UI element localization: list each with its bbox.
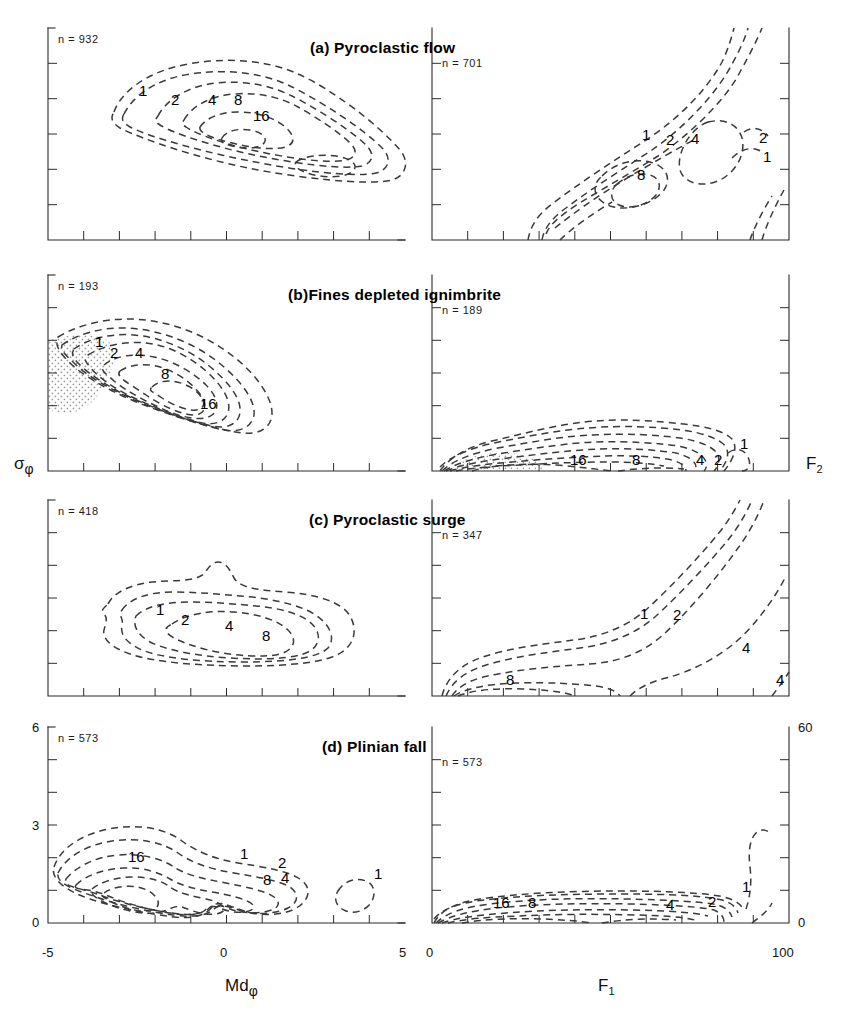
x-axis-title-subscript: φ: [249, 983, 258, 999]
panel-b-title: (b)Fines depleted ignimbrite: [288, 287, 501, 303]
panel-c-right-plot: [432, 500, 789, 696]
panel-c-marker: (c): [309, 511, 329, 528]
contour-label-2: 2: [714, 452, 722, 467]
contour-label-4: 4: [776, 672, 784, 687]
contour-label-4: 4: [225, 618, 233, 633]
x-axis-tick-mid: 0: [220, 946, 227, 959]
y-axis-tick-6: 6: [32, 721, 39, 734]
panel-a-title-text: Pyroclastic flow: [334, 39, 455, 56]
contour-label-8: 8: [234, 92, 242, 107]
contour-label-4: 4: [135, 345, 143, 360]
panel-b-right-n-label: n = 189: [442, 305, 483, 316]
contour-label-4: 4: [666, 897, 674, 912]
x-axis-title-base: Md: [225, 976, 249, 995]
panel-b-right-plot: [432, 275, 789, 471]
panel-b-left-plot: [48, 275, 405, 471]
contour-label-1: 1: [95, 334, 103, 349]
panel-c-right-n-label: n = 347: [442, 530, 483, 541]
contour-label-4: 4: [208, 92, 216, 107]
panel-c-left-n-label: n = 418: [58, 506, 99, 517]
y-axis-title-sigmaphi: σφ: [14, 455, 34, 476]
x-axis-title-mdphi: Mdφ: [225, 977, 258, 998]
contour-label-8: 8: [528, 895, 536, 910]
contour-label-1: 1: [740, 436, 748, 451]
panel-a-title: (a) Pyroclastic flow: [310, 40, 455, 56]
contour-label-16: 16: [128, 849, 145, 864]
panel-b-title-text: Fines depleted ignimbrite: [308, 286, 501, 303]
panel-a-left-n-label: n = 932: [58, 34, 99, 45]
x2-axis-tick-min: 0: [426, 946, 433, 959]
y-axis-tick-0: 0: [32, 916, 39, 929]
x2-axis-title-f1: F1: [598, 977, 615, 997]
contour-label-2: 2: [673, 607, 681, 622]
panel-d-marker: (d): [322, 738, 342, 755]
contour-label-16: 16: [570, 452, 587, 467]
panel-d-left-n-label: n = 573: [58, 733, 99, 744]
panel-d-left-plot: [48, 727, 405, 923]
contour-label-1: 1: [139, 83, 147, 98]
panel-b-marker: (b): [288, 286, 308, 303]
y2-axis-title-f2: F2: [806, 455, 823, 475]
contour-label-2: 2: [181, 612, 189, 627]
contour-label-4: 4: [696, 452, 704, 467]
x2-axis-title-base: F: [598, 976, 608, 995]
panel-a-right-plot: [432, 28, 789, 240]
y2-axis-tick-60: 60: [798, 721, 812, 734]
contour-label-2: 2: [759, 130, 767, 145]
panel-d-right-plot: [432, 727, 789, 923]
panel-c-title: (c) Pyroclastic surge: [309, 512, 466, 528]
contour-label-8: 8: [506, 672, 514, 687]
panel-d-right-n-label: n = 573: [442, 757, 483, 768]
panel-d-title: (d) Plinian fall: [322, 739, 427, 755]
contour-label-4: 4: [742, 640, 750, 655]
panel-a-right-n-label: n = 701: [442, 58, 483, 69]
panel-a-left-plot: [48, 28, 405, 240]
y-axis-title-base: σ: [14, 454, 25, 473]
contour-label-8: 8: [637, 167, 645, 182]
contour-label-2: 2: [110, 345, 118, 360]
contour-label-1: 1: [640, 606, 648, 621]
contour-label-2: 2: [708, 894, 716, 909]
contour-label-1: 1: [156, 602, 164, 617]
contour-label-2: 2: [666, 132, 674, 147]
x2-axis-tick-max: 100: [772, 946, 794, 959]
x2-axis-title-subscript: 1: [608, 985, 614, 997]
contour-label-8: 8: [263, 872, 271, 887]
contour-label-8: 8: [632, 452, 640, 467]
contour-label-16: 16: [200, 396, 217, 411]
contour-label-1: 1: [742, 879, 750, 894]
contour-label-4: 4: [691, 131, 699, 146]
contour-label-1: 1: [374, 866, 382, 881]
panel-d-title-text: Plinian fall: [347, 738, 427, 755]
contour-label-4: 4: [281, 870, 289, 885]
x-axis-tick-max: 5: [399, 946, 406, 959]
x-axis-tick-min: -5: [42, 946, 54, 959]
panel-b-left-n-label: n = 193: [58, 281, 99, 292]
contour-label-16: 16: [493, 895, 510, 910]
contour-label-8: 8: [262, 628, 270, 643]
panel-c-left-plot: [48, 500, 405, 696]
figure-root: n = 932 1 2 4 8 16: [0, 0, 848, 1020]
y2-axis-title-base: F: [806, 454, 816, 473]
y-axis-title-subscript: φ: [25, 461, 34, 477]
panel-a-marker: (a): [310, 39, 330, 56]
contour-label-16: 16: [253, 108, 270, 123]
y-axis-tick-3: 3: [32, 819, 39, 832]
contour-label-8: 8: [161, 366, 169, 381]
contour-label-2: 2: [171, 92, 179, 107]
panel-c-title-text: Pyroclastic surge: [333, 511, 466, 528]
y2-axis-title-subscript: 2: [816, 463, 822, 475]
contour-label-1: 1: [763, 149, 771, 164]
contour-label-1: 1: [240, 846, 248, 861]
y2-axis-tick-0: 0: [798, 916, 805, 929]
contour-label-1: 1: [642, 127, 650, 142]
contour-label-2: 2: [278, 855, 286, 870]
